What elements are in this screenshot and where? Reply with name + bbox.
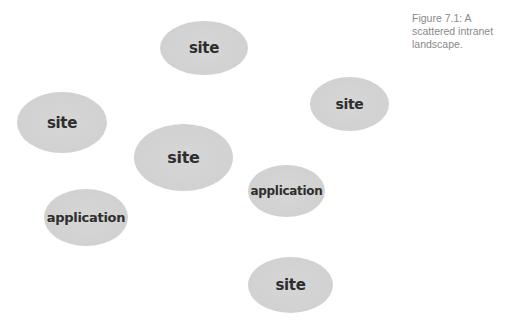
node-label: site [189, 39, 219, 57]
node-label: application [250, 184, 322, 198]
node-label: site [167, 148, 199, 167]
application-node-right: application [248, 165, 325, 217]
site-node-right: site [310, 77, 389, 131]
site-node-center: site [134, 124, 233, 191]
node-label: site [335, 96, 363, 112]
application-node-left: application [44, 189, 128, 246]
site-node-bottom: site [248, 257, 333, 313]
node-label: site [275, 276, 305, 294]
site-node-top: site [160, 21, 248, 75]
node-label: application [47, 210, 125, 225]
figure-caption: Figure 7.1: A scattered intranet landsca… [412, 12, 512, 51]
site-node-left: site [17, 92, 107, 153]
node-label: site [47, 114, 77, 132]
